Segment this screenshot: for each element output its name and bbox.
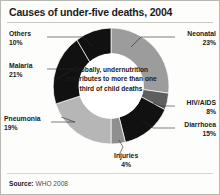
slice-label-diarrhoea[interactable]: Diarrhoea 15% [184, 121, 216, 138]
slice-label-diarrhoea-name: Diarrhoea [184, 121, 216, 128]
slice-label-neonatal-name: Neonatal [187, 30, 216, 37]
source-divider [7, 173, 213, 174]
slice-label-hiv-aids[interactable]: HIV/AIDS 8% [187, 99, 216, 116]
slice-label-injuries-name: Injuries [114, 152, 138, 159]
slice-label-others-name: Others [9, 30, 31, 37]
slice-label-neonatal-value: 23% [187, 39, 216, 48]
source-label: Source: [9, 180, 34, 187]
slice-label-injuries[interactable]: Injuries 4% [114, 152, 138, 169]
slice-label-others[interactable]: Others 10% [9, 30, 31, 47]
slice-label-malaria-name: Malaria [9, 62, 32, 69]
donut-hole [79, 54, 144, 119]
slice-label-hiv-aids-value: 8% [187, 108, 216, 117]
slice-label-others-value: 10% [9, 39, 31, 48]
page-title: Causes of under-five deaths, 2004 [9, 6, 172, 18]
slice-label-malaria[interactable]: Malaria 21% [9, 62, 32, 79]
source-value: WHO 2008 [35, 180, 68, 187]
slice-label-hiv-aids-name: HIV/AIDS [187, 99, 216, 106]
slice-label-malaria-value: 21% [9, 71, 32, 80]
slice-label-pneumonia-name: Pneumonia [4, 115, 41, 122]
donut-chart-plot: Globally, undernutrition contributes to … [1, 21, 220, 171]
source-note: Source: WHO 2008 [9, 180, 68, 187]
slice-label-neonatal[interactable]: Neonatal 23% [187, 30, 216, 47]
chart-figure: Causes of under-five deaths, 2004 [0, 0, 220, 195]
slice-label-pneumonia[interactable]: Pneumonia 19% [4, 115, 41, 132]
slice-label-pneumonia-value: 19% [4, 124, 41, 133]
slice-label-diarrhoea-value: 15% [184, 130, 216, 139]
slice-label-injuries-value: 4% [114, 161, 138, 170]
